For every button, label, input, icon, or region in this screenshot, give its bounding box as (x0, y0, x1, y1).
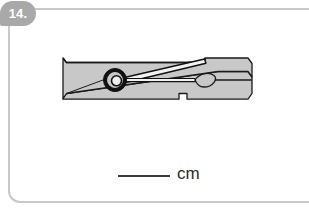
unit-label: cm (177, 165, 200, 182)
worksheet-page: 14. cm (0, 0, 309, 216)
clothespin-spring-coil-inner (112, 76, 122, 86)
clothespin-upper-edge-highlight (63, 58, 205, 63)
answer-blank-line[interactable] (118, 175, 170, 177)
question-number-badge: 14. (0, 1, 36, 26)
answer-row: cm (118, 165, 200, 182)
clothespin-illustration (55, 46, 260, 108)
clothespin-spring-tail (117, 79, 195, 82)
